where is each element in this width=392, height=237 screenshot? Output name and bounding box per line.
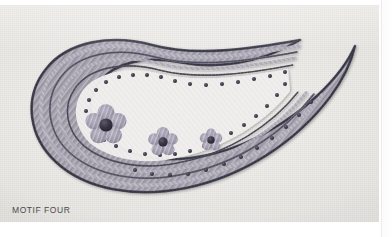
photo-plate: MOTIF FOUR — [0, 5, 379, 222]
flower-small-center — [207, 136, 214, 143]
flower-large-center — [99, 118, 112, 131]
page-root: MOTIF FOUR — [0, 0, 392, 237]
photo-caption: MOTIF FOUR — [12, 205, 70, 215]
top-margin — [0, 0, 392, 5]
paisley-embroidery-illustration — [0, 5, 379, 222]
paisley-stitch-group — [32, 40, 355, 192]
bottom-margin — [0, 222, 392, 237]
flower-medium-center — [158, 137, 167, 146]
page-gutter-rule — [381, 0, 382, 237]
